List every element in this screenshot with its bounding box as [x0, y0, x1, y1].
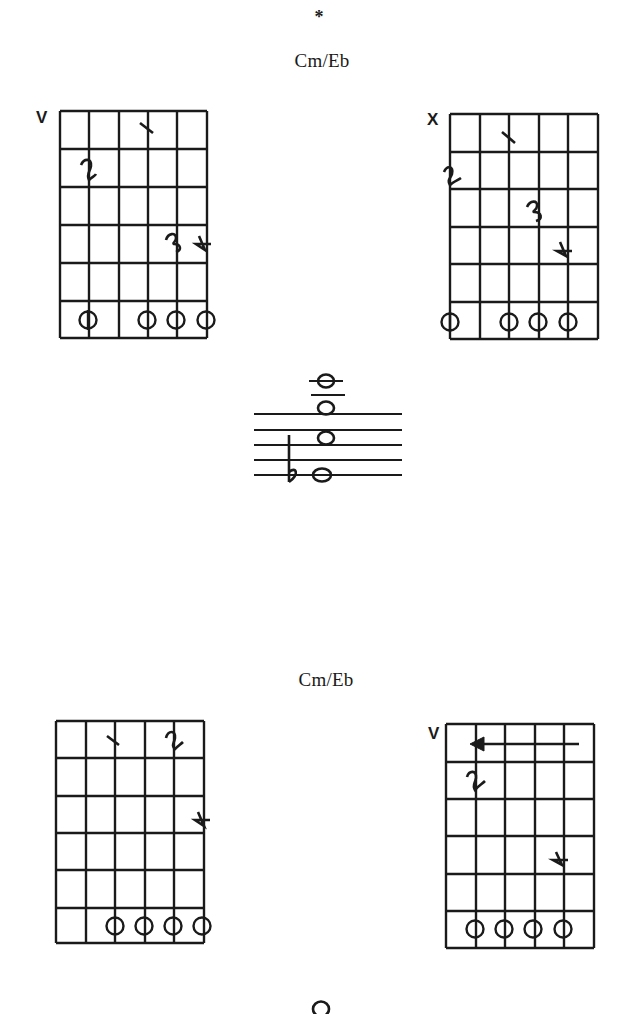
- finger-4-mark: [195, 812, 210, 826]
- finger-2-mark: [444, 167, 461, 185]
- finger-1-mark: [107, 736, 119, 745]
- open-string-circles: [107, 918, 211, 935]
- chord-diagram-4: [446, 724, 594, 948]
- slide-arrow-icon: [470, 737, 579, 751]
- staff-notation: [254, 375, 402, 483]
- open-string-circles: [467, 921, 572, 938]
- chord-diagram-3: [56, 721, 211, 943]
- fretboard-grid: [446, 724, 594, 948]
- finger-4-mark: [557, 242, 572, 256]
- chord-diagram-1: [60, 111, 215, 338]
- finger-2-mark: [467, 772, 485, 790]
- note-heads: [313, 375, 334, 482]
- finger-2-mark: [166, 732, 183, 749]
- partial-note-bottom: [313, 1002, 329, 1014]
- finger-4-mark: [553, 852, 568, 865]
- finger-4-mark: [196, 236, 211, 250]
- fretboard-grid: [450, 114, 598, 339]
- chord-sheet-graphics: [0, 0, 637, 1014]
- fretboard-grid: [56, 721, 204, 943]
- fretboard-grid: [60, 111, 207, 338]
- finger-1-mark: [140, 123, 153, 133]
- chord-diagram-2: [442, 114, 599, 339]
